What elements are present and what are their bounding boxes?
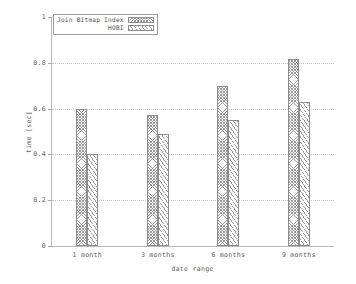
y-axis-tick-label: 0: [42, 243, 46, 250]
y-axis-tick-mark: [48, 200, 52, 201]
y-axis-tick-label: 0.2: [33, 197, 46, 204]
bar-join-bitmap-index-1-month: [76, 109, 87, 246]
x-axis-tick-label: 1 month: [73, 252, 103, 259]
legend-label-join-bitmap-index: Join Bitmap Index: [57, 17, 124, 23]
y-axis-tick-label: 0.8: [33, 60, 46, 67]
chart-legend: Join Bitmap Index HOBI: [53, 14, 158, 35]
x-axis-tick-label: 6 months: [211, 252, 245, 259]
bar-join-bitmap-index-9-months: [288, 59, 299, 246]
x-axis-tick-label: 3 months: [141, 252, 175, 259]
legend-swatch-hobi: [128, 25, 154, 31]
plot-area: 00.20.40.60.811 month3 months6 months9 m…: [51, 17, 334, 247]
bar-hobi-3-months: [158, 134, 169, 246]
bar-join-bitmap-index-6-months: [217, 86, 228, 246]
x-axis-tick-label: 9 months: [282, 252, 316, 259]
y-axis-tick-mark: [48, 109, 52, 110]
bar-hobi-6-months: [228, 120, 239, 246]
bar-join-bitmap-index-3-months: [147, 115, 158, 246]
x-axis-title: date range: [51, 266, 334, 273]
bar-hobi-9-months: [299, 102, 310, 246]
y-axis-tick-mark: [48, 63, 52, 64]
legend-swatch-join-bitmap-index: [128, 17, 154, 23]
y-axis-tick-label: 0.6: [33, 105, 46, 112]
legend-item: HOBI: [57, 24, 154, 32]
bar-hobi-1-month: [87, 154, 98, 246]
y-axis-tick-label: 0.4: [33, 151, 46, 158]
legend-item: Join Bitmap Index: [57, 16, 154, 24]
chart-figure: 00.20.40.60.811 month3 months6 months9 m…: [0, 0, 356, 284]
y-axis-tick-mark: [48, 154, 52, 155]
y-axis-tick-mark: [48, 246, 52, 247]
y-axis-title: time [sec]: [26, 111, 33, 153]
y-axis-tick-label: 1: [42, 14, 46, 21]
y-axis-tick-mark: [48, 17, 52, 18]
legend-label-hobi: HOBI: [108, 25, 124, 31]
